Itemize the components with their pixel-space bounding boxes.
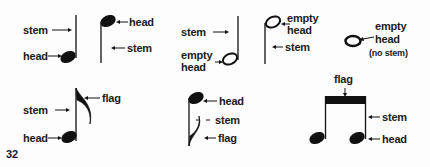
label-stem: stem [215, 115, 240, 126]
label-head: head [23, 133, 48, 144]
page-number: 32 [6, 148, 18, 160]
label-head: head [129, 17, 154, 28]
label-head: head [23, 51, 48, 62]
label-flag: flag [102, 93, 121, 104]
label-no-stem: (no stem) [369, 48, 408, 59]
label-stem: stem [23, 105, 48, 116]
label-flag: flag [334, 74, 353, 85]
music-note-diagram: stem head head stem stem empty head empt… [0, 0, 430, 167]
label-head: head [219, 96, 244, 107]
label-head: head [375, 34, 400, 45]
label-stem: stem [285, 42, 310, 53]
label-stem: stem [23, 25, 48, 36]
label-empty: empty [181, 50, 212, 61]
label-stem: stem [382, 112, 407, 123]
label-head: head [287, 25, 312, 36]
label-empty: empty [375, 21, 406, 32]
label-head: head [382, 134, 407, 145]
label-head: head [181, 62, 206, 73]
note-drawings [0, 0, 430, 167]
label-flag: flag [218, 133, 237, 144]
label-empty: empty [287, 13, 318, 24]
label-stem: stem [181, 27, 206, 38]
label-stem: stem [127, 43, 152, 54]
